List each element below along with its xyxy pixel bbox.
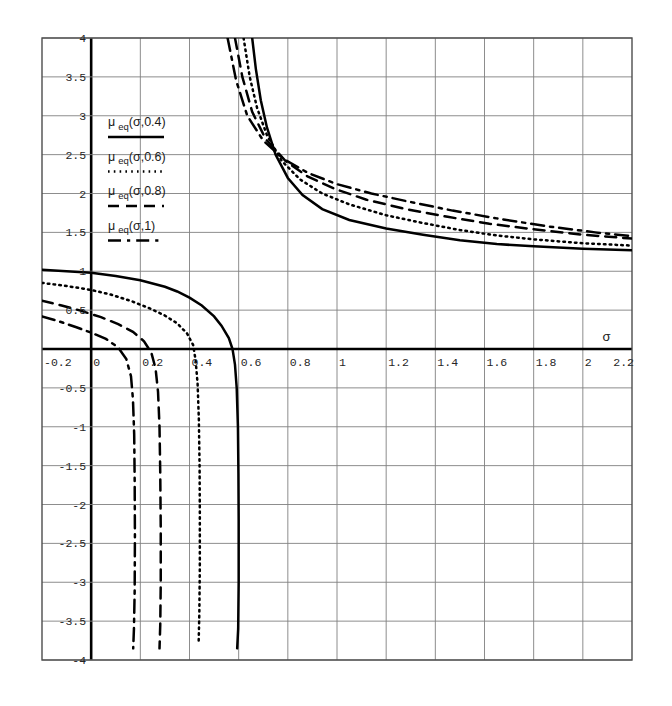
y-tick-label: -1 [72, 421, 86, 434]
x-tick-label: 0.8 [290, 356, 311, 369]
y-tick-label: 4 [79, 32, 86, 45]
x-tick-label: 1.8 [536, 356, 557, 369]
y-tick-label: 2.5 [65, 149, 86, 162]
y-tick-label: 1 [79, 265, 86, 278]
y-tick-label: 0.5 [65, 304, 86, 317]
x-tick-label: -0.2 [44, 356, 72, 369]
x-tick-label: 1.6 [487, 356, 508, 369]
chart-canvas: -0.200.20.40.60.811.21.41.61.822.243.532… [0, 0, 672, 706]
x-tick-label: 1 [339, 356, 346, 369]
x-tick-label: 0.6 [241, 356, 262, 369]
x-tick-label: 0 [93, 356, 100, 369]
y-tick-label: 1.5 [65, 226, 86, 239]
x-tick-label: 2 [585, 356, 592, 369]
y-tick-label: -3.5 [59, 615, 87, 628]
x-tick-label: 0.4 [192, 356, 213, 369]
y-tick-label: 2 [79, 188, 86, 201]
y-tick-label: -4 [72, 654, 86, 667]
x-tick-label: 1.4 [437, 356, 458, 369]
y-tick-label: -2 [72, 499, 86, 512]
y-tick-label: -3 [72, 576, 86, 589]
x-tick-label: 0.2 [142, 356, 163, 369]
y-tick-label: -0.5 [59, 382, 87, 395]
x-tick-label: 2.2 [613, 356, 634, 369]
y-tick-label: -1.5 [59, 460, 87, 473]
y-tick-label: 3 [79, 110, 86, 123]
y-tick-label: 3.5 [65, 71, 86, 84]
y-tick-label: -2.5 [59, 537, 87, 550]
x-tick-label: 1.2 [388, 356, 409, 369]
x-axis-label: σ [603, 329, 611, 344]
chart-figure: -0.200.20.40.60.811.21.41.61.822.243.532… [0, 0, 672, 706]
